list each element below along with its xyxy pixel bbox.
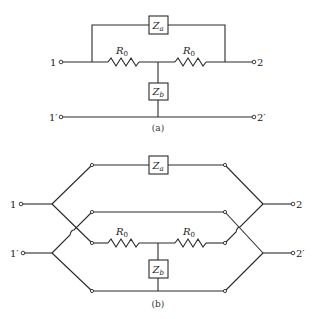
resistor-right-zigzag [175,58,206,66]
fork-2-from-top [225,165,263,204]
terminal-1-prime [59,115,63,119]
resistor-right-label: R0 [182,226,195,239]
fork-2-from-resistor-line [225,204,263,243]
diagram-b: Za R0 R0 Zb [10,156,305,309]
node [223,241,226,244]
fork-2-prime-from-middle [225,212,263,253]
node [223,210,226,213]
terminal-2-prime [252,115,256,119]
terminal-1-label: 1 [50,57,56,68]
resistor-left-zigzag [108,58,139,66]
node [90,163,93,166]
terminal-1-prime [21,251,25,255]
terminal-2-prime [291,251,295,255]
fork-1-prime-to-bottom [52,253,92,291]
terminal-1-prime-label: 1′ [49,112,58,123]
resistor-left-label: R0 [115,45,128,58]
terminal-2-prime-label: 2′ [257,112,266,123]
resistor-left-zigzag [108,239,139,247]
terminal-2-label: 2 [296,199,302,210]
terminal-1-label: 1 [10,199,16,210]
circuit-figure: Za R0 R0 Zb 1 2 1′ 2′ (a) [0,0,321,319]
node [90,289,93,292]
terminal-2 [252,60,256,64]
caption-a: (a) [152,123,164,133]
resistor-right-zigzag [175,239,206,247]
diagram-a: Za R0 R0 Zb 1 2 1′ 2′ (a) [49,16,266,133]
bridge-wire-right [168,25,225,62]
node [90,210,93,213]
terminal-1 [59,60,63,64]
node [223,163,226,166]
resistor-right-label: R0 [182,45,195,58]
terminal-2-label: 2 [257,57,263,68]
terminal-2 [291,202,295,206]
caption-b: (b) [152,299,165,309]
bridge-wire-left [92,25,149,62]
fork-1-to-top [52,165,92,204]
resistor-left-label: R0 [115,226,128,239]
fork-2-prime-from-bottom [225,253,263,291]
node [223,289,226,292]
fork-1-to-resistor-line [52,204,92,243]
node [90,241,93,244]
fork-1-prime-to-middle [52,212,92,253]
terminal-2-prime-label: 2′ [296,248,305,259]
terminal-1 [19,202,23,206]
terminal-1-prime-label: 1′ [10,248,19,259]
